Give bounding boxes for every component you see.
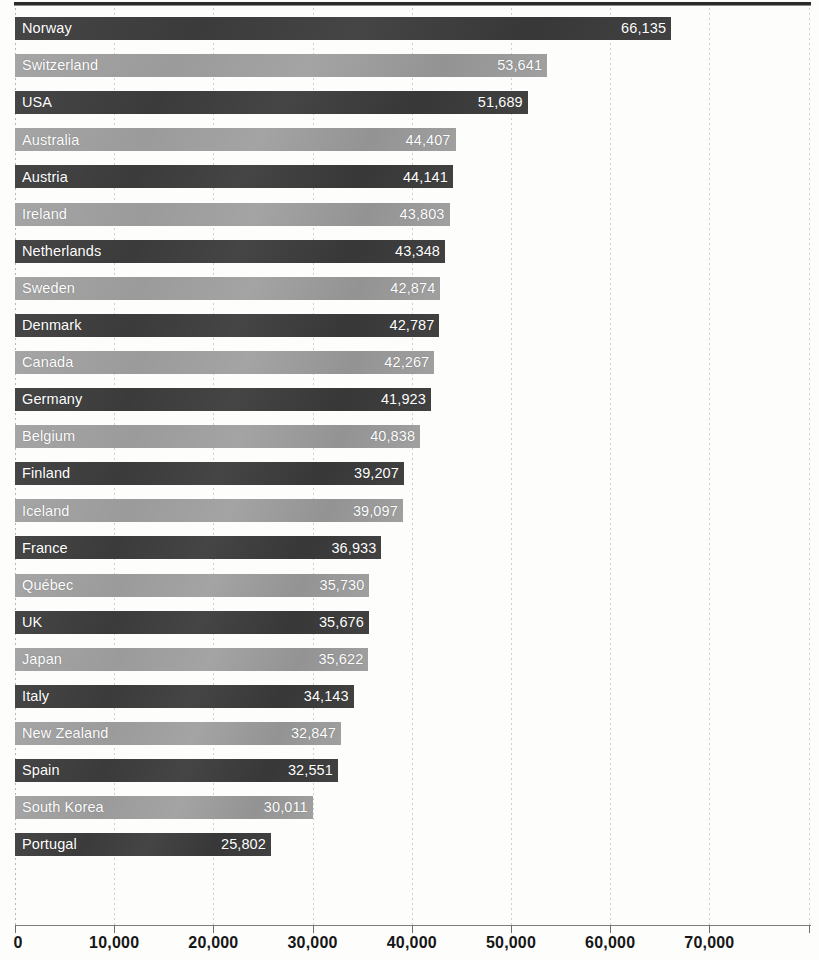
x-tick-label: 10,000: [89, 934, 139, 952]
bar[interactable]: Germany41,923: [15, 388, 431, 411]
x-tick-60000: [610, 925, 611, 933]
bar-value-label: 35,730: [319, 578, 364, 593]
bar[interactable]: Denmark42,787: [15, 314, 439, 337]
bar-category-label: Sweden: [22, 281, 75, 296]
bar[interactable]: South Korea30,011: [15, 796, 313, 819]
bar-value-label: 41,923: [381, 392, 426, 407]
bar-chart: Norway66,135Switzerland53,641USA51,689Au…: [0, 0, 819, 960]
bar-row[interactable]: Québec35,730: [15, 574, 369, 597]
bar[interactable]: Italy34,143: [15, 685, 354, 708]
bar[interactable]: Norway66,135: [15, 17, 671, 40]
bar-row[interactable]: Ireland43,803: [15, 203, 450, 226]
bar-value-label: 36,933: [331, 541, 376, 556]
bar[interactable]: Sweden42,874: [15, 277, 440, 300]
x-tick-label: 20,000: [188, 934, 238, 952]
bar-value-label: 34,143: [304, 689, 349, 704]
bar-category-label: Belgium: [22, 429, 75, 444]
bar-category-label: Denmark: [22, 318, 82, 333]
bar-row[interactable]: Iceland39,097: [15, 499, 403, 522]
bar-category-label: Spain: [22, 763, 60, 778]
x-tick-40000: [412, 925, 413, 933]
bar-category-label: New Zealand: [22, 726, 109, 741]
bar-value-label: 42,874: [390, 281, 435, 296]
bar-row[interactable]: Portugal25,802: [15, 833, 271, 856]
bar-category-label: Norway: [22, 21, 72, 36]
bar-category-label: Canada: [22, 355, 73, 370]
bar-row[interactable]: Switzerland53,641: [15, 54, 547, 77]
x-axis-ticks: [0, 925, 819, 934]
bar[interactable]: Australia44,407: [15, 128, 456, 151]
bar-value-label: 43,803: [400, 207, 445, 222]
x-tick-label: 40,000: [387, 934, 437, 952]
bar-row[interactable]: Italy34,143: [15, 685, 354, 708]
bar-value-label: 43,348: [395, 244, 440, 259]
bar-value-label: 35,622: [318, 652, 363, 667]
x-tick-label: 50,000: [486, 934, 536, 952]
bar-row[interactable]: Belgium40,838: [15, 425, 420, 448]
bar[interactable]: New Zealand32,847: [15, 722, 341, 745]
bar-row[interactable]: New Zealand32,847: [15, 722, 341, 745]
bar[interactable]: USA51,689: [15, 91, 528, 114]
bar-category-label: South Korea: [22, 800, 104, 815]
x-axis-tick-labels: 010,00020,00030,00040,00050,00060,00070,…: [0, 934, 819, 960]
bar-row[interactable]: Australia44,407: [15, 128, 456, 151]
x-tick-label: 30,000: [288, 934, 338, 952]
x-tick-label: 0: [13, 934, 22, 952]
bar-row[interactable]: USA51,689: [15, 91, 528, 114]
bar-row[interactable]: UK35,676: [15, 611, 369, 634]
bar-row[interactable]: Canada42,267: [15, 351, 434, 374]
bar[interactable]: Ireland43,803: [15, 203, 450, 226]
bar-value-label: 66,135: [621, 21, 666, 36]
bar-value-label: 30,011: [264, 800, 308, 815]
bar-category-label: Finland: [22, 466, 70, 481]
bar-row[interactable]: Spain32,551: [15, 759, 338, 782]
bar-row[interactable]: Norway66,135: [15, 17, 671, 40]
bar[interactable]: Switzerland53,641: [15, 54, 547, 77]
bar-row[interactable]: Sweden42,874: [15, 277, 440, 300]
bar-row[interactable]: Finland39,207: [15, 462, 404, 485]
bar-category-label: Portugal: [22, 837, 77, 852]
top-divider-rule: [14, 2, 811, 5]
bar-value-label: 44,407: [406, 133, 451, 148]
bar-row[interactable]: Japan35,622: [15, 648, 368, 671]
bar[interactable]: Canada42,267: [15, 351, 434, 374]
bar-value-label: 44,141: [403, 170, 448, 185]
x-tick-label: 70,000: [684, 934, 734, 952]
bar-category-label: Germany: [22, 392, 82, 407]
bar[interactable]: Spain32,551: [15, 759, 338, 782]
bar[interactable]: UK35,676: [15, 611, 369, 634]
bar[interactable]: Finland39,207: [15, 462, 404, 485]
x-tick-label: 60,000: [585, 934, 635, 952]
bar-category-label: France: [22, 541, 68, 556]
bar-value-label: 39,097: [353, 504, 398, 519]
x-tick-30000: [313, 925, 314, 933]
bar[interactable]: Netherlands43,348: [15, 240, 445, 263]
bar-row[interactable]: Germany41,923: [15, 388, 431, 411]
bar[interactable]: Portugal25,802: [15, 833, 271, 856]
bar[interactable]: Belgium40,838: [15, 425, 420, 448]
bar[interactable]: Québec35,730: [15, 574, 369, 597]
bar[interactable]: Japan35,622: [15, 648, 368, 671]
bar-row[interactable]: South Korea30,011: [15, 796, 313, 819]
bar-value-label: 25,802: [221, 837, 266, 852]
bar-row[interactable]: France36,933: [15, 536, 381, 559]
bar-category-label: Switzerland: [22, 58, 98, 73]
bar-category-label: Québec: [22, 578, 73, 593]
bar-value-label: 42,787: [389, 318, 434, 333]
bar-value-label: 39,207: [354, 466, 399, 481]
bar-value-label: 32,847: [291, 726, 336, 741]
bar-row[interactable]: Austria44,141: [15, 165, 453, 188]
bar-row[interactable]: Netherlands43,348: [15, 240, 445, 263]
bar-category-label: Netherlands: [22, 244, 101, 259]
bar[interactable]: Iceland39,097: [15, 499, 403, 522]
bar[interactable]: France36,933: [15, 536, 381, 559]
bar-row[interactable]: Denmark42,787: [15, 314, 439, 337]
plot-area: Norway66,135Switzerland53,641USA51,689Au…: [0, 8, 819, 925]
bar-value-label: 32,551: [288, 763, 333, 778]
bar-category-label: Japan: [22, 652, 62, 667]
x-tick-20000: [213, 925, 214, 933]
bar-value-label: 51,689: [478, 95, 523, 110]
x-tick-0: [15, 925, 16, 933]
bar[interactable]: Austria44,141: [15, 165, 453, 188]
bar-category-label: USA: [22, 95, 52, 110]
